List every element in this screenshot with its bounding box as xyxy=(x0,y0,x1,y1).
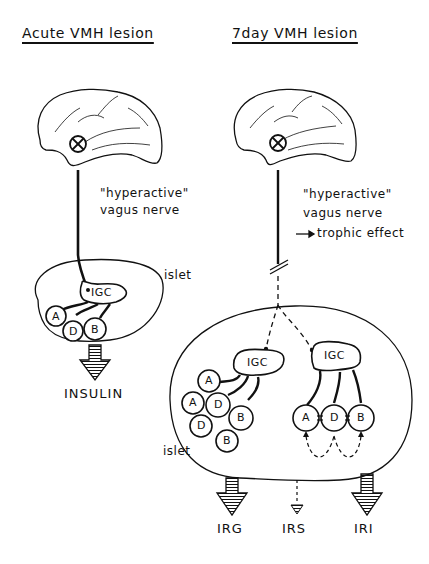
secretion-arrow-irs xyxy=(291,505,303,514)
cluster-cell-b1: B xyxy=(237,411,245,424)
cluster-cell-a1: A xyxy=(205,374,213,387)
cell-b-left: B xyxy=(91,323,99,336)
nerve-label-right-1: "hyperactive" xyxy=(303,187,392,201)
paracrine-loops xyxy=(306,436,361,457)
panel-title-acute: Acute VMH lesion xyxy=(22,25,154,41)
output-label-irg: IRG xyxy=(217,521,243,536)
trophic-arrow-icon xyxy=(296,231,314,237)
cluster-cell-a2: A xyxy=(189,396,197,409)
islet-label-right: islet xyxy=(163,444,191,458)
cell-a-left: A xyxy=(52,310,60,323)
output-label-iri: IRI xyxy=(354,521,374,536)
igc-label-cluster: IGC xyxy=(247,356,268,369)
row-cell-b: B xyxy=(357,411,365,424)
igc-label-row: IGC xyxy=(324,349,345,362)
nerve-label-left-2: vagus nerve xyxy=(100,203,180,217)
output-label-irs: IRS xyxy=(282,521,306,536)
nerve-dashed-branches xyxy=(266,276,312,350)
vagus-nerve-left xyxy=(78,170,88,290)
trophic-effect-label: trophic effect xyxy=(317,226,404,240)
brain-icon-left xyxy=(38,89,162,165)
lesion-icon-left xyxy=(70,136,86,152)
brain-icon-right xyxy=(234,89,356,164)
nerve-label-right-2: vagus nerve xyxy=(303,206,383,220)
secretion-arrow-iri xyxy=(352,474,382,515)
panel-title-7day: 7day VMH lesion xyxy=(232,25,358,41)
secretion-arrow-insulin xyxy=(80,345,110,380)
secretion-arrow-irg xyxy=(217,478,247,515)
igc-label-left: IGC xyxy=(91,286,112,299)
nerve-label-left-1: "hyperactive" xyxy=(100,186,189,200)
diagram-canvas xyxy=(0,0,429,564)
lesion-icon-right xyxy=(270,135,286,151)
row-cell-d: D xyxy=(330,411,339,424)
loop-arrowheads xyxy=(303,431,364,437)
output-label-insulin: INSULIN xyxy=(64,386,123,401)
islet-label-left: islet xyxy=(164,268,192,282)
row-cell-a: A xyxy=(302,411,310,424)
cluster-cell-b2: B xyxy=(223,434,231,447)
cluster-cell-d2: D xyxy=(197,419,206,432)
cell-d-left: D xyxy=(69,325,78,338)
igc-connections-row xyxy=(307,370,361,405)
cluster-cell-d1: D xyxy=(214,398,223,411)
islet-right xyxy=(170,306,412,481)
